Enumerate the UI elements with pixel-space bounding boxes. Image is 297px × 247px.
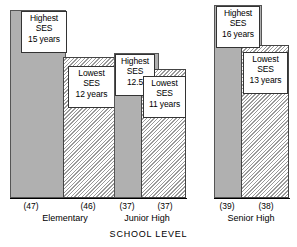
value-label-line3: 11 years	[144, 99, 185, 109]
group-label-junior-high: Junior High	[108, 213, 186, 223]
baseline-senior-high	[214, 198, 290, 199]
sample-size-lowest-ses-senior-high: (38)	[247, 201, 285, 211]
value-label-highest-ses-elementary: Highest SES 15 years	[21, 11, 67, 53]
group-label-senior-high: Senior High	[212, 213, 290, 223]
value-label-highest-ses-senior-high: Highest SES 16 years	[216, 6, 260, 48]
value-label-line2: SES	[69, 78, 114, 88]
value-label-line2: SES	[217, 18, 259, 28]
value-label-line3: 16 years	[217, 29, 259, 39]
sample-size-lowest-ses-junior-high: (37)	[146, 201, 184, 211]
value-label-line1: Highest	[116, 56, 154, 66]
value-label-lowest-ses-senior-high: Lowest SES 13 years	[243, 52, 288, 94]
baseline-junior-high	[114, 198, 187, 199]
value-label-line3: 13 years	[244, 75, 287, 85]
value-label-line1: Lowest	[244, 54, 287, 64]
value-label-line1: Highest	[217, 8, 259, 18]
baseline-elementary	[10, 198, 120, 199]
sample-size-highest-ses-senior-high: (39)	[208, 201, 246, 211]
value-label-line3: 12 years	[69, 89, 114, 99]
sample-size-highest-ses-junior-high: (37)	[108, 201, 146, 211]
x-axis-title: SCHOOL LEVEL	[0, 229, 297, 239]
ses-education-bar-chart: Highest SES 15 years Lowest SES 12 years…	[0, 0, 297, 247]
value-label-line2: SES	[244, 64, 287, 74]
value-label-line1: Lowest	[69, 68, 114, 78]
value-label-line2: SES	[22, 23, 66, 33]
sample-size-highest-ses-elementary: (47)	[10, 201, 52, 211]
value-label-line1: Highest	[22, 13, 66, 23]
value-label-lowest-ses-junior-high: Lowest SES 11 years	[143, 76, 186, 118]
value-label-line2: SES	[144, 88, 185, 98]
sample-size-lowest-ses-elementary: (46)	[64, 201, 112, 211]
group-label-elementary: Elementary	[10, 213, 120, 223]
value-label-line3: 15 years	[22, 34, 66, 44]
value-label-line1: Lowest	[144, 78, 185, 88]
value-label-lowest-ses-elementary: Lowest SES 12 years	[68, 66, 115, 108]
